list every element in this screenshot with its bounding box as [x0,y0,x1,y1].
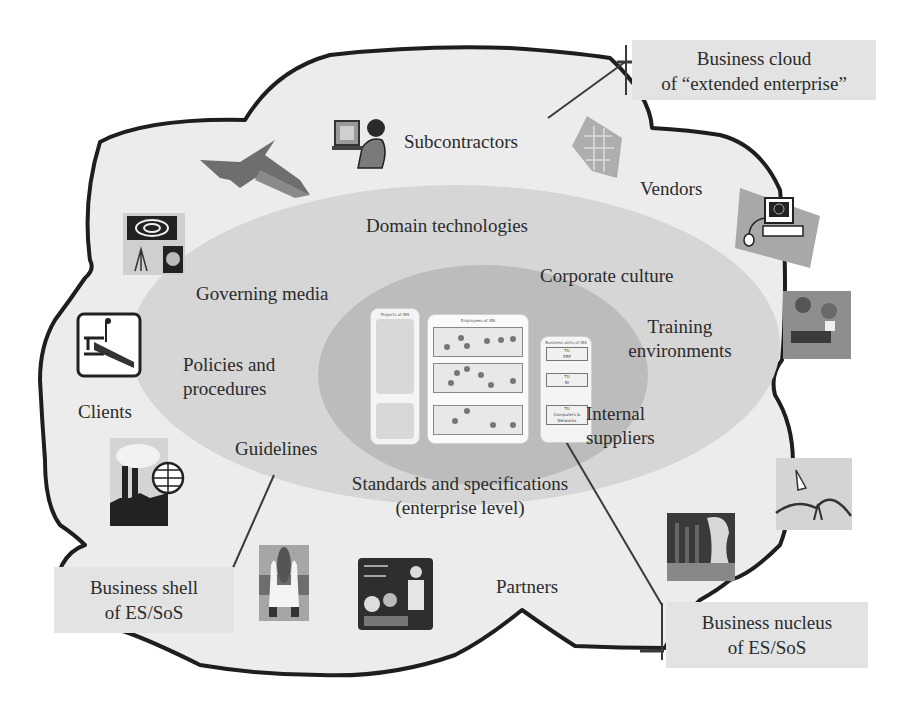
bar-chart-people-icon [667,513,735,581]
label-policies-procedures: Policies and procedures [183,353,275,401]
label-vendors: Vendors [640,177,702,201]
projects-panel-title: Projects of IBS [371,312,419,317]
label-corporate-culture: Corporate culture [540,264,673,288]
label-domain-technologies: Domain technologies [366,214,528,238]
unit-box-computers-networks: TU Computers & Networks [546,405,588,425]
business-units-panel-title: Business units of IBS [541,340,591,345]
business-units-panel: Business units of IBS TU ERP TU BI TU Co… [540,336,592,443]
business-nucleus-diagram: Projects of IBS Employees of IBS Busines [370,308,595,443]
projects-panel: Projects of IBS [370,308,420,445]
label-internal-suppliers: Internal suppliers [586,402,655,450]
employees-panel: Employees of IBS [427,314,529,444]
label-subcontractors: Subcontractors [404,130,518,154]
project-group-2 [376,403,414,439]
team-collage-icon [783,291,851,359]
label-partners: Partners [496,575,558,599]
ecosystem-diagram: Projects of IBS Employees of IBS Busines [0,0,918,713]
employee-row [433,405,523,435]
steel-beam-crane-icon [78,314,140,376]
label-standards-specifications: Standards and specifications (enterprise… [325,472,595,520]
label-clients: Clients [78,400,132,424]
callout-business-cloud: Business cloud of “extended enterprise” [632,40,876,100]
unit-box-erp: TU ERP [546,347,588,361]
employee-row [433,363,523,393]
label-training-environments: Training environments [610,315,750,363]
label-guidelines: Guidelines [235,437,317,461]
graph-people-icon [776,458,852,530]
label-governing-media: Governing media [196,282,328,306]
employees-panel-title: Employees of IBS [428,318,528,323]
unit-box-bi: TU BI [546,373,588,387]
space-shuttle-icon [259,545,309,621]
callout-business-nucleus: Business nucleus of ES/SoS [666,602,868,668]
project-group-1 [376,319,414,394]
astronomy-icon [123,213,185,275]
classroom-teacher-icon [358,558,433,630]
employee-row [433,327,523,357]
callout-business-shell: Business shell of ES/SoS [54,567,234,633]
